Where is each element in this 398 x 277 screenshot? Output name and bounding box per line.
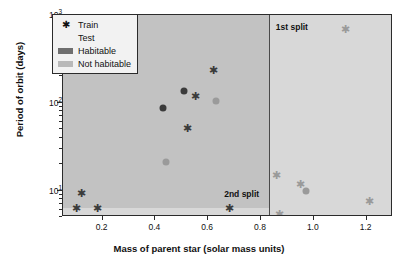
y-minor-tick [59, 198, 62, 199]
habitable-swatch-icon [58, 48, 73, 54]
data-point [160, 104, 167, 111]
x-tick-label: 0.4 [148, 222, 160, 232]
y-minor-tick [59, 148, 62, 149]
y-minor-tick [59, 110, 62, 111]
y-minor-tick [59, 121, 62, 122]
x-tick-label: 0.6 [201, 222, 213, 232]
first-split-line [269, 15, 271, 216]
x-tick [313, 216, 314, 220]
y-minor-tick [59, 128, 62, 129]
legend-label-test: Test [78, 33, 95, 43]
region-not-habitable-right [269, 15, 392, 216]
data-point [162, 159, 169, 166]
first-split-label: 1st split [276, 22, 308, 32]
star-icon: ✱ [57, 20, 74, 30]
scatter-plot-figure: ✱✱✱✱✱✱✱✱✱✱✱✱ 1st split 2nd split 0.20.40… [0, 0, 398, 277]
legend-item-not-habitable: Not habitable [57, 57, 131, 70]
x-tick [366, 216, 367, 220]
y-minor-tick [59, 75, 62, 76]
x-tick [260, 216, 261, 220]
data-point: ✱ [275, 209, 284, 216]
data-point: ✱ [225, 203, 234, 214]
x-axis-title: Mass of parent star (solar mass units) [0, 243, 398, 254]
x-tick [102, 216, 103, 220]
y-minor-tick [59, 106, 62, 107]
legend-item-train: ✱ Train [57, 18, 131, 31]
data-point: ✱ [72, 203, 81, 214]
y-axis-title: Period of orbit (days) [14, 15, 25, 165]
x-tick-label: 1.0 [307, 222, 319, 232]
y-minor-tick [59, 203, 62, 204]
second-split-label: 2nd split [224, 189, 259, 199]
x-tick-label: 1.2 [360, 222, 372, 232]
x-tick-label: 0.2 [96, 222, 108, 232]
x-tick [207, 216, 208, 220]
data-point: ✱ [365, 196, 374, 207]
data-point [302, 187, 309, 194]
data-point [213, 97, 220, 104]
data-point: ✱ [272, 170, 281, 181]
data-point: ✱ [209, 65, 218, 76]
legend-label-train: Train [78, 20, 98, 30]
y-minor-tick [59, 216, 62, 217]
y-minor-tick [59, 194, 62, 195]
legend-label-not-habitable: Not habitable [78, 59, 131, 69]
data-point [181, 88, 188, 95]
y-minor-tick [59, 209, 62, 210]
legend-box: ✱ Train Test Habitable Not habitable [52, 14, 138, 74]
data-point: ✱ [183, 122, 192, 133]
x-tick-label: 0.8 [254, 222, 266, 232]
x-tick [154, 216, 155, 220]
data-point: ✱ [93, 203, 102, 214]
legend-item-test: Test [57, 31, 131, 44]
data-point: ✱ [191, 90, 200, 101]
y-minor-tick [59, 115, 62, 116]
y-minor-tick [59, 163, 62, 164]
legend-label-habitable: Habitable [78, 46, 116, 56]
legend-item-habitable: Habitable [57, 44, 131, 57]
not-habitable-swatch-icon [58, 61, 73, 67]
data-point: ✱ [77, 187, 86, 198]
y-minor-tick [59, 137, 62, 138]
data-point: ✱ [341, 23, 350, 34]
